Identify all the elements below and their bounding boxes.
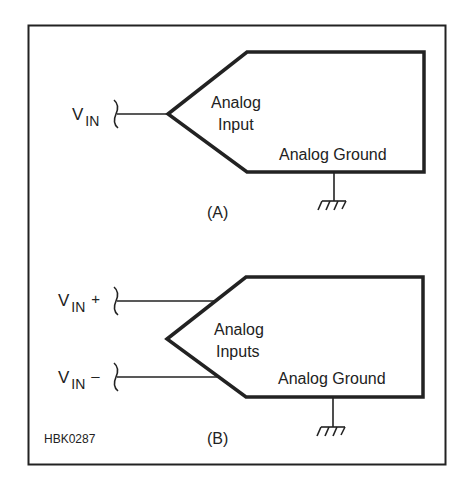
vin-neg-label: VIN–	[58, 367, 100, 392]
analog-ground-label: Analog Ground	[279, 146, 387, 163]
vin-pos-label: VIN+	[58, 290, 100, 315]
block-label-inputs: Inputs	[216, 343, 260, 360]
vin-label: VIN	[72, 105, 99, 129]
diagram-canvas: VIN Analog Input Analog Ground (A) VIN+ …	[0, 0, 466, 484]
panel-b-caption: (B)	[207, 430, 228, 447]
figure-id-label: HBK0287	[44, 432, 96, 446]
panel-a-caption: (A)	[207, 204, 228, 221]
block-label-input: Input	[218, 116, 254, 133]
panel-b: VIN+ VIN– Analog Inputs Analog Ground (B…	[44, 277, 423, 447]
block-label-analog: Analog	[214, 321, 264, 338]
block-label-analog: Analog	[211, 94, 261, 111]
panel-a: VIN Analog Input Analog Ground (A)	[72, 52, 424, 221]
ground-icon	[318, 201, 346, 210]
ground-icon	[317, 427, 345, 436]
analog-ground-label: Analog Ground	[278, 370, 386, 387]
